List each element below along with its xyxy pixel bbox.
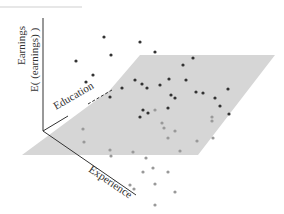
data-point <box>201 91 204 94</box>
data-point <box>181 63 184 66</box>
data-point <box>133 78 136 81</box>
data-point <box>191 56 194 59</box>
data-point <box>153 182 156 185</box>
data-point <box>166 170 169 173</box>
data-point <box>144 156 147 159</box>
data-point <box>146 111 149 114</box>
data-point <box>141 170 144 173</box>
data-point <box>141 108 144 111</box>
data-point <box>226 87 229 90</box>
data-point <box>166 136 169 139</box>
data-point <box>138 40 141 43</box>
data-point <box>74 59 77 62</box>
data-point <box>109 53 112 56</box>
data-point <box>162 126 165 129</box>
data-point <box>173 190 176 193</box>
experience-axis-label: Experience <box>87 163 135 201</box>
data-point <box>167 77 170 80</box>
data-point <box>145 86 148 89</box>
data-point <box>138 115 141 118</box>
data-point <box>210 115 213 118</box>
regression-plane-diagram: Earnings E( (earnings) ) Education Exper… <box>0 0 284 214</box>
data-point <box>169 93 172 96</box>
data-point <box>131 150 134 153</box>
data-point <box>120 86 123 89</box>
data-point <box>151 166 154 169</box>
data-point <box>109 154 112 157</box>
data-point <box>108 148 111 151</box>
data-point <box>211 136 214 139</box>
data-point <box>82 140 85 143</box>
data-point <box>160 121 163 124</box>
data-point <box>213 96 216 99</box>
data-point <box>102 35 105 38</box>
data-point <box>173 96 176 99</box>
data-point <box>91 73 94 76</box>
data-point <box>166 106 169 109</box>
data-point <box>227 112 230 115</box>
data-point <box>210 119 213 122</box>
data-point <box>184 78 187 81</box>
data-point <box>108 95 111 98</box>
data-point <box>140 82 143 85</box>
data-point <box>81 127 84 130</box>
data-point <box>195 139 198 142</box>
expected-earnings-label: E( (earnings) ) <box>28 28 41 92</box>
data-point <box>158 83 161 86</box>
earnings-axis-label: Earnings <box>15 26 27 65</box>
data-point <box>194 90 197 93</box>
data-point <box>153 203 156 206</box>
data-point <box>218 104 221 107</box>
data-point <box>153 108 156 111</box>
data-point <box>173 129 176 132</box>
data-point <box>153 50 156 53</box>
data-point <box>178 149 181 152</box>
